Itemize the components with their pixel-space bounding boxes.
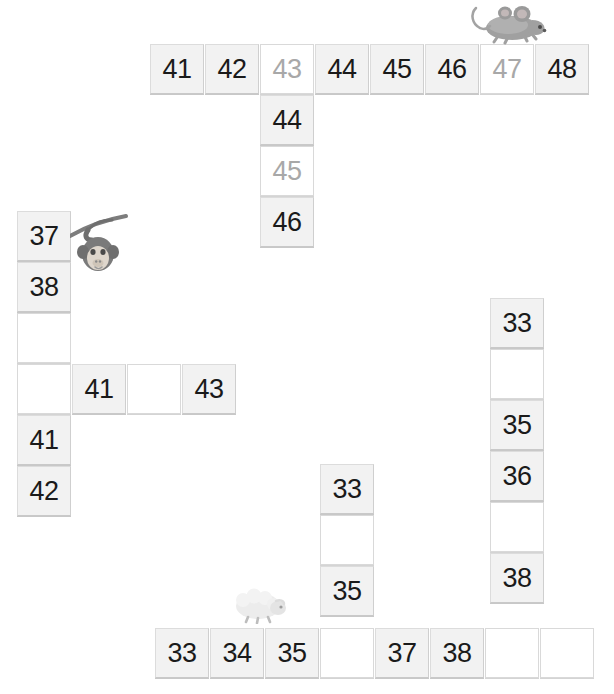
puzzle-cell[interactable]: 45 xyxy=(370,44,424,94)
puzzle-cell[interactable]: 43 xyxy=(260,44,314,94)
puzzle-cell[interactable]: 34 xyxy=(210,628,264,678)
puzzle-cell[interactable]: 35 xyxy=(490,400,544,450)
puzzle-cell[interactable]: 33 xyxy=(490,298,544,348)
puzzle-cell-empty[interactable] xyxy=(127,364,181,414)
puzzle-cell-empty[interactable] xyxy=(485,628,539,678)
puzzle-cell[interactable]: 41 xyxy=(150,44,204,94)
puzzle-cell-empty[interactable] xyxy=(320,515,374,565)
puzzle-cell-empty[interactable] xyxy=(17,313,71,363)
puzzle-cell-empty[interactable] xyxy=(490,349,544,399)
puzzle-cell[interactable]: 41 xyxy=(72,364,126,414)
puzzle-cell[interactable]: 42 xyxy=(205,44,259,94)
puzzle-cell-empty[interactable] xyxy=(320,628,374,678)
puzzle-cell[interactable]: 46 xyxy=(425,44,479,94)
puzzle-cell[interactable]: 48 xyxy=(535,44,589,94)
puzzle-board: 3837353433353338363533434142413837464544… xyxy=(0,0,614,694)
puzzle-cell[interactable]: 38 xyxy=(490,553,544,603)
puzzle-cell[interactable]: 37 xyxy=(17,211,71,261)
puzzle-cell-empty[interactable] xyxy=(540,628,594,678)
puzzle-cell[interactable]: 35 xyxy=(265,628,319,678)
puzzle-cell[interactable]: 36 xyxy=(490,451,544,501)
puzzle-cell[interactable]: 35 xyxy=(320,566,374,616)
puzzle-cell[interactable]: 46 xyxy=(260,197,314,247)
puzzle-cell[interactable]: 44 xyxy=(315,44,369,94)
sheep-icon xyxy=(232,586,288,624)
puzzle-cell-empty[interactable] xyxy=(490,502,544,552)
puzzle-cell[interactable]: 41 xyxy=(17,415,71,465)
puzzle-cell[interactable]: 47 xyxy=(480,44,534,94)
monkey-icon xyxy=(70,212,132,280)
puzzle-cell[interactable]: 38 xyxy=(430,628,484,678)
puzzle-cell[interactable]: 37 xyxy=(375,628,429,678)
puzzle-cell[interactable]: 42 xyxy=(17,466,71,516)
puzzle-cell[interactable]: 44 xyxy=(260,95,314,145)
puzzle-cell[interactable]: 33 xyxy=(320,464,374,514)
puzzle-cell[interactable]: 38 xyxy=(17,262,71,312)
puzzle-cell-empty[interactable] xyxy=(17,364,71,414)
puzzle-cell[interactable]: 33 xyxy=(155,628,209,678)
mouse-icon xyxy=(468,2,550,46)
puzzle-cell[interactable]: 43 xyxy=(182,364,236,414)
puzzle-cell[interactable]: 45 xyxy=(260,146,314,196)
